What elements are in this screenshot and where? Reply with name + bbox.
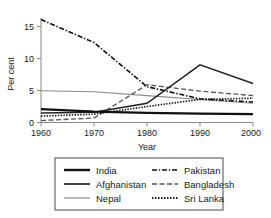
x-tick-label-2000: 2000: [241, 128, 261, 138]
legend-label-pakistan: Pakistan: [184, 165, 220, 176]
y-tick-label-10: 10: [24, 54, 34, 64]
series-group: [41, 19, 253, 120]
legend-label-afghanistan: Afghanistan: [96, 179, 146, 190]
y-axis-title: Per cent: [6, 57, 16, 91]
legend-label-sri-lanka: Sri Lanka: [184, 193, 225, 204]
x-tick-label-1990: 1990: [190, 128, 210, 138]
legend-label-nepal: Nepal: [96, 193, 121, 204]
x-tick-label-1980: 1980: [137, 128, 157, 138]
series-line-pakistan: [41, 19, 253, 102]
chart-canvas: 0 5 10 15 Per cent 1960 1970 1980 1990 2…: [0, 0, 271, 218]
x-tick-label-1970: 1970: [84, 128, 104, 138]
line-chart: 0 5 10 15 Per cent 1960 1970 1980 1990 2…: [0, 0, 271, 218]
legend-label-bangladesh: Bangladesh: [184, 179, 234, 190]
x-axis-title: Year: [138, 142, 156, 152]
legend-label-india: India: [96, 165, 117, 176]
y-tick-label-0: 0: [29, 118, 34, 128]
y-tick-label-15: 15: [24, 22, 34, 32]
y-tick-label-5: 5: [29, 86, 34, 96]
x-tick-label-1960: 1960: [31, 128, 51, 138]
series-line-india: [41, 109, 253, 114]
